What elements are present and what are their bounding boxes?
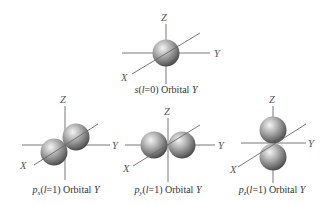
orbital-word: Orbital [161,84,189,95]
quantum-value: =0 [145,84,156,95]
function-symbol: Y [300,184,306,195]
x-axis-label: X [19,160,27,171]
quantum-value: =1 [252,184,263,195]
py-orbital-caption: py(l=1) Orbital Y [135,184,202,196]
function-symbol: Y [192,84,198,95]
pz-orbital-caption: pz(l=1) Orbital Y [239,184,306,196]
y-axis-label: Y [112,140,119,151]
y-axis-label: Y [214,48,221,59]
function-symbol: Y [94,184,100,195]
x-axis-label: X [229,164,237,175]
s-orbital-figure: Z Y X [120,12,221,84]
orbital-word: Orbital [165,184,193,195]
z-axis-label: Z [164,106,170,117]
function-symbol: Y [196,184,202,195]
px-orbital-caption: px(l=1) Orbital Y [33,184,100,196]
px-orbital-figure: Z Y X [19,94,119,180]
px-lobe-back [63,124,90,151]
orbital-diagram: Z Y X Z Y X Z Y X Z Y X [0,0,332,206]
x-axis-label: X [120,72,128,83]
pz-lobe-top [260,117,287,144]
quantum-value: =1 [149,184,160,195]
z-axis-label: Z [161,12,167,23]
quantum-value: =1 [47,184,58,195]
orbital-subscript: x [38,189,41,196]
py-lobe-left [141,132,168,159]
py-orbital-figure: Z Y X [122,106,225,182]
orbital-subscript: z [244,189,247,196]
orbital-word: Orbital [269,184,297,195]
z-axis-label: Z [60,94,66,105]
pz-lobe-bottom [260,144,287,171]
s-orbital-caption: s(l=0) Orbital Y [135,84,198,95]
y-axis-label: Y [218,140,225,151]
pz-orbital-figure: Z Y X [229,94,315,183]
orbital-letter: s [135,84,139,95]
orbital-subscript: y [140,189,143,196]
orbital-word: Orbital [63,184,91,195]
y-axis-label: Y [308,138,315,149]
z-axis-label: Z [269,94,275,105]
x-axis-label: X [122,163,130,174]
